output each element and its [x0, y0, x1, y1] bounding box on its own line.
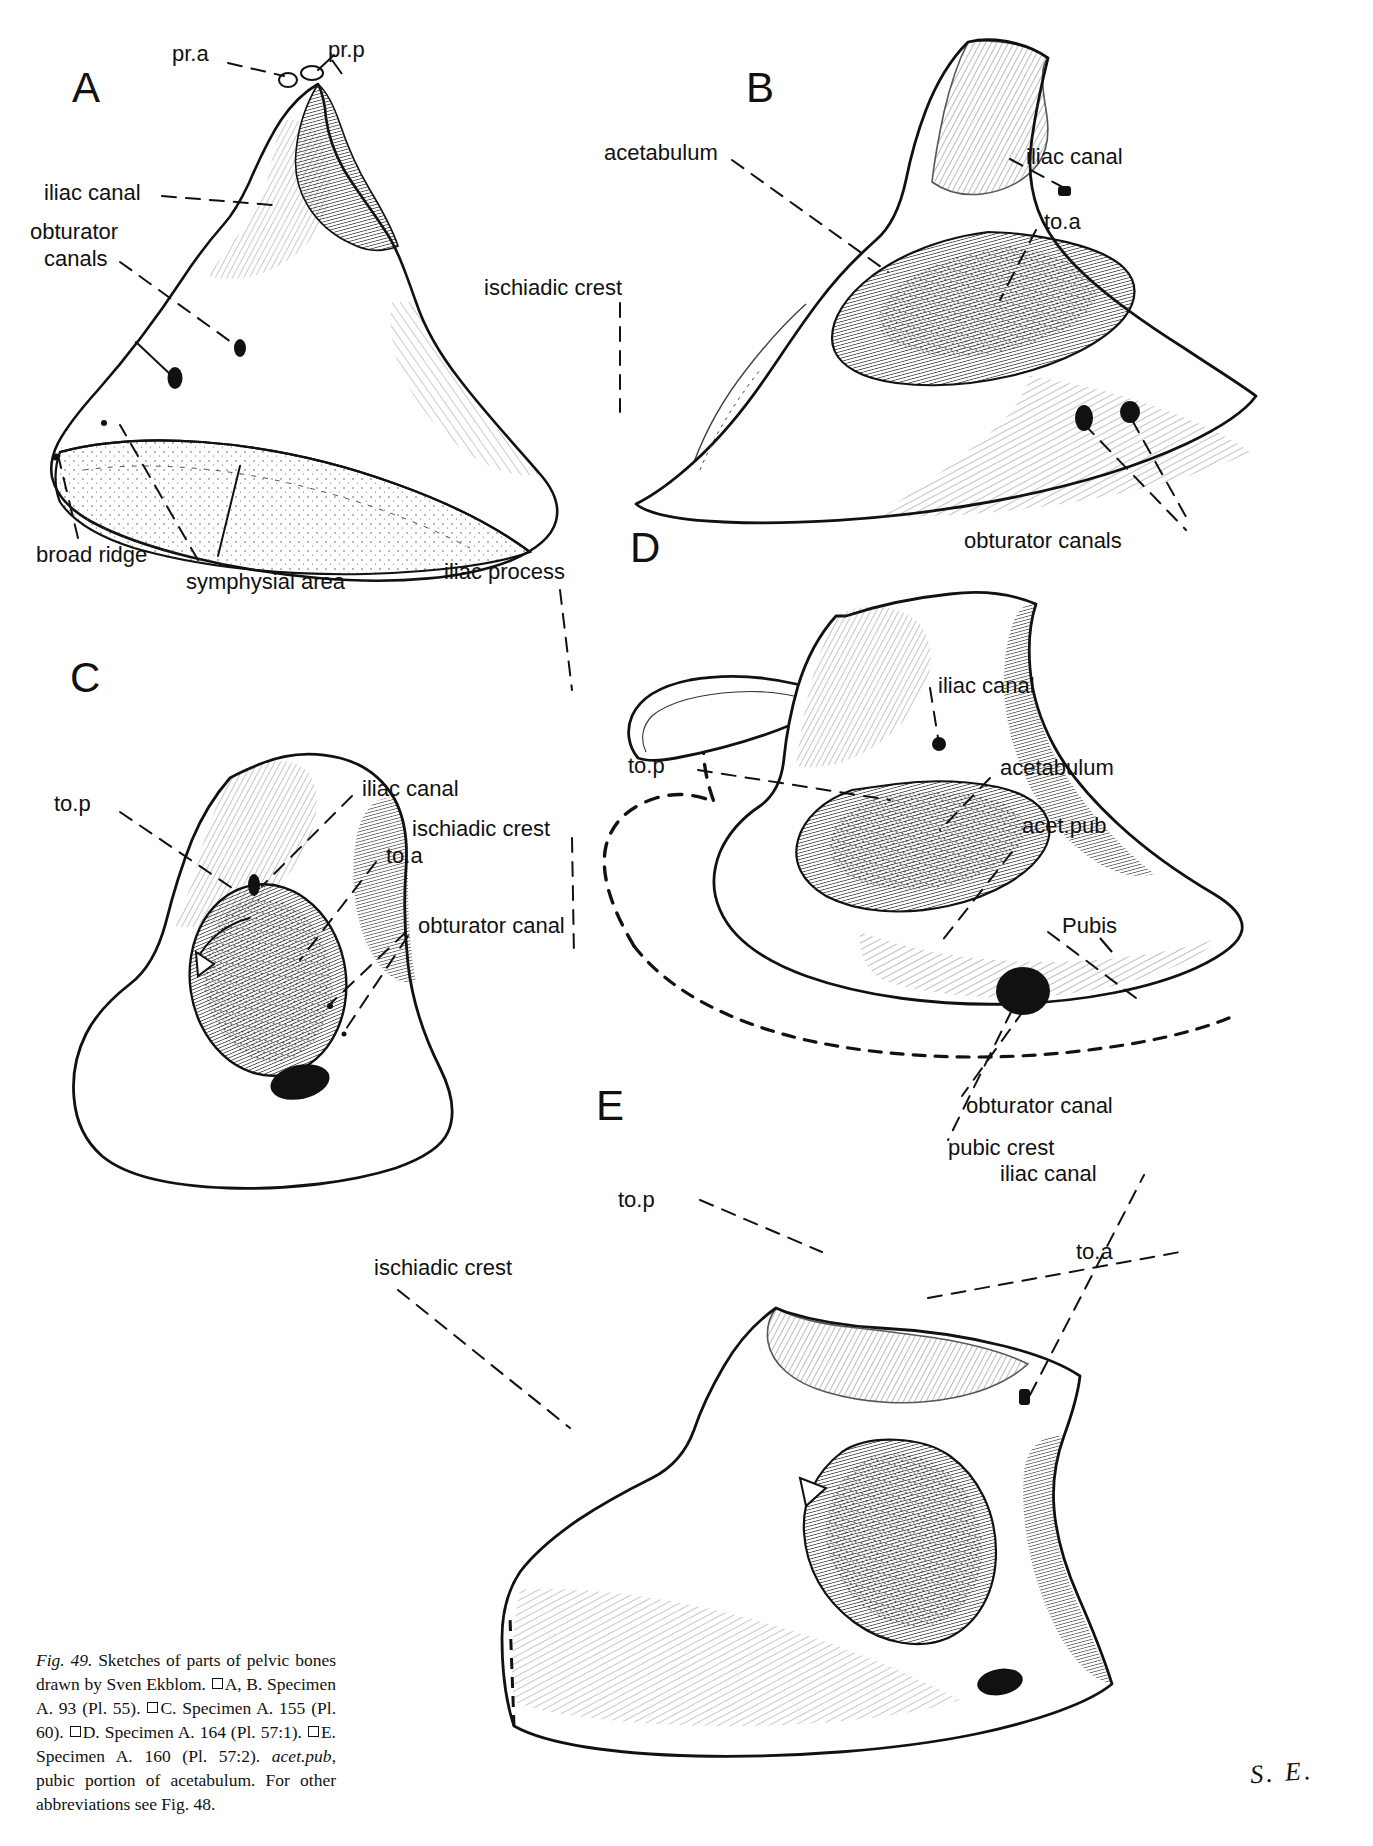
- label-a-obturator: obturator: [30, 218, 118, 245]
- caption-abbreviation-term: acet.pub: [272, 1746, 332, 1766]
- square-bullet-icon: [147, 1702, 158, 1713]
- label-b-to-a: to.a: [1044, 208, 1081, 235]
- label-d-iliac-process: iliac process: [444, 558, 565, 585]
- panel-letter-c: C: [70, 654, 101, 702]
- square-bullet-icon: [70, 1726, 81, 1737]
- label-c-to-a: to.a: [386, 842, 423, 869]
- label-e-to-a: to.a: [1076, 1238, 1113, 1265]
- caption-segment-d: D. Specimen A. 164 (Pl. 57:1).: [83, 1722, 307, 1742]
- label-d-obturator-canal: obturator canal: [966, 1092, 1113, 1119]
- panel-a-bone: [51, 60, 557, 581]
- label-a-broad-ridge: broad ridge: [36, 541, 147, 568]
- panel-e-bone: [502, 1308, 1112, 1756]
- panel-letter-e: E: [596, 1082, 625, 1130]
- figure-page: A B C D E pr.a pr.p iliac canal obturato…: [0, 0, 1373, 1846]
- panel-letter-d: D: [630, 524, 661, 572]
- label-a-pr-a: pr.a: [172, 40, 209, 67]
- label-a-iliac-canal: iliac canal: [44, 179, 141, 206]
- label-b-ischiadic-crest: ischiadic crest: [484, 274, 622, 301]
- panel-letter-a: A: [72, 64, 101, 112]
- square-bullet-icon: [308, 1726, 319, 1737]
- label-c-ischiadic-crest: ischiadic crest: [412, 815, 550, 842]
- label-a-pr-p: pr.p: [328, 36, 365, 63]
- panel-d-bone: [604, 592, 1242, 1057]
- label-d-to-p: to.p: [628, 752, 665, 779]
- label-d-acetabulum: acetabulum: [1000, 754, 1114, 781]
- panel-letter-b: B: [746, 64, 775, 112]
- panel-b-bone: [636, 40, 1256, 523]
- label-d-pubis: Pubis: [1062, 912, 1117, 939]
- label-c-iliac-canal: iliac canal: [362, 775, 459, 802]
- label-b-acetabulum: acetabulum: [604, 139, 718, 166]
- label-b-obturator-canals: obturator canals: [964, 527, 1122, 554]
- label-c-obturator-canal: obturator canal: [418, 912, 565, 939]
- label-c-to-p: to.p: [54, 790, 91, 817]
- label-b-iliac-canal: iliac canal: [1026, 143, 1123, 170]
- label-e-iliac-canal: iliac canal: [1000, 1160, 1097, 1187]
- label-e-ischiadic-crest: ischiadic crest: [374, 1254, 512, 1281]
- label-d-pubic-crest: pubic crest: [948, 1134, 1054, 1161]
- pelvic-bone-illustrations: [0, 0, 1373, 1846]
- label-a-canals: canals: [44, 245, 108, 272]
- panel-c-bone: [74, 754, 453, 1188]
- figure-caption: Fig. 49. Sketches of parts of pelvic bon…: [36, 1648, 336, 1816]
- label-a-symphysial-area: symphysial area: [186, 568, 345, 595]
- label-d-acet-pub: acet.pub: [1022, 812, 1106, 839]
- label-d-iliac-canal: iliac canal: [938, 672, 1035, 699]
- label-e-to-p: to.p: [618, 1186, 655, 1213]
- caption-figure-number: Fig. 49.: [36, 1650, 92, 1670]
- artist-signature: S. E.: [1249, 1756, 1314, 1790]
- square-bullet-icon: [212, 1678, 223, 1689]
